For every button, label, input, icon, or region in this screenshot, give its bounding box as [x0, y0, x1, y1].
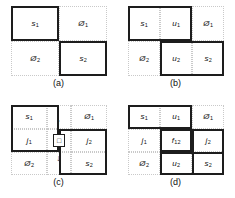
center-box-symbol: □ — [53, 134, 65, 147]
panel-caption-c: (c) — [0, 177, 117, 187]
panel-b-grid: s1 u1 Ø1 Ø2 u2 s2 — [128, 6, 224, 76]
arrow-down-icon: ↓ — [54, 154, 63, 163]
panel-b: s1 u1 Ø1 Ø2 u2 s2 (b) — [117, 0, 234, 99]
cell-label-f12: f12 — [160, 129, 192, 152]
cell-label-empty1: Ø1 — [59, 6, 107, 41]
cell-label-u1: u1 — [160, 6, 192, 41]
panel-c-grid: s1 Ø1 j1 j2 Ø2 s2 ↑ □ ↓ — [11, 105, 107, 175]
cell-label-empty2: Ø2 — [128, 152, 160, 175]
cell-label-empty2: Ø2 — [128, 41, 160, 76]
figure-canvas: s1 Ø1 Ø2 s2 (a) s1 u1 Ø1 Ø2 u2 s2 (b) — [0, 0, 235, 198]
cell-label-s2: s2 — [192, 41, 224, 76]
panel-d: s1 u1 Ø1 j1 f12 j2 Ø2 u2 s2 (d) — [117, 99, 234, 198]
cell-label-s1: s1 — [128, 105, 160, 129]
cell-label-s2: s2 — [192, 152, 224, 175]
panel-c: s1 Ø1 j1 j2 Ø2 s2 ↑ □ ↓ (c) — [0, 99, 117, 198]
cell-label-s2: s2 — [71, 152, 107, 175]
cell-label-s1: s1 — [128, 6, 160, 41]
cell-label-j1: j1 — [11, 129, 47, 152]
cell-label-empty1: Ø1 — [71, 105, 107, 129]
arrow-up-icon: ↑ — [54, 118, 63, 127]
cell-label-u2: u2 — [160, 152, 192, 175]
cell-label-u1: u1 — [160, 105, 192, 129]
cell-label-j2: j2 — [192, 129, 224, 152]
cell-label-empty2: Ø2 — [11, 41, 59, 76]
panel-d-grid: s1 u1 Ø1 j1 f12 j2 Ø2 u2 s2 — [128, 105, 224, 175]
cell-label-s1: s1 — [11, 105, 47, 129]
cell-label-empty1: Ø1 — [192, 6, 224, 41]
panel-caption-a: (a) — [0, 78, 117, 88]
panel-caption-b: (b) — [117, 78, 234, 88]
cell-label-empty2: Ø2 — [11, 152, 47, 175]
panel-a-grid: s1 Ø1 Ø2 s2 — [11, 6, 107, 76]
cell-label-empty1: Ø1 — [192, 105, 224, 129]
cell-label-u2: u2 — [160, 41, 192, 76]
cell-label-s2: s2 — [59, 41, 107, 76]
panel-caption-d: (d) — [117, 177, 234, 187]
cell-label-j2: j2 — [71, 129, 107, 152]
cell-label-s1: s1 — [11, 6, 59, 41]
cell-label-j1: j1 — [128, 129, 160, 152]
panel-a: s1 Ø1 Ø2 s2 (a) — [0, 0, 117, 99]
